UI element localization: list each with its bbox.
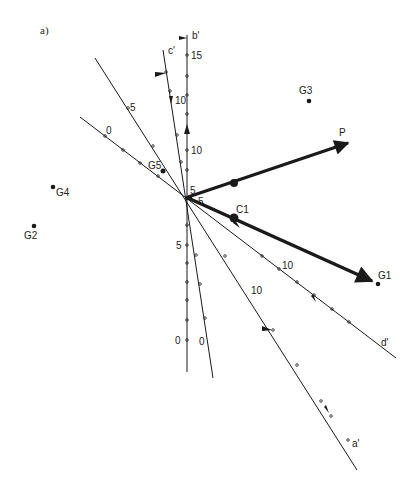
axis-c-label: c'	[168, 45, 175, 56]
point-G2-label: G2	[24, 230, 38, 241]
biplot-figure: a) b' 15 10 5 0 c' 10 0	[0, 0, 413, 484]
point-G3: G3	[299, 85, 313, 103]
axis-c-tick: 0	[199, 336, 205, 347]
axis-d-label: d'	[381, 337, 389, 348]
axis-d-tick: 0	[106, 125, 112, 136]
axis-b-tick: 5	[176, 240, 182, 251]
arrowhead-icon	[184, 124, 190, 134]
flag-marker-icon	[262, 326, 272, 331]
axis-c-tick: 10	[175, 95, 187, 106]
axis-b-label: b'	[192, 30, 200, 41]
vector-P-label: P	[339, 127, 346, 138]
flag-marker-icon	[179, 36, 187, 40]
axis-b-tick: 0	[175, 335, 181, 346]
vector-C1-label: C1	[236, 204, 249, 215]
panel-label: a)	[40, 24, 49, 37]
axis-b-tick: 10	[191, 145, 203, 156]
axis-d-tick: 10	[282, 260, 294, 271]
point-G4-label: G4	[56, 187, 70, 198]
axis-a-label: a'	[352, 438, 360, 449]
axis-b-tick: 15	[191, 50, 203, 61]
axis-a-tick: 5	[130, 102, 136, 113]
point-G1: G1	[376, 270, 392, 286]
point-G2: G2	[24, 224, 38, 241]
axis-a-tick: 10	[251, 285, 263, 296]
point-G3-label: G3	[299, 85, 313, 96]
point-G1-label: G1	[378, 270, 392, 281]
axis-d: 0 10 d'	[80, 117, 396, 358]
vector-P: P	[188, 127, 348, 197]
point-G4: G4	[51, 185, 70, 198]
axis-a: 5 10 a'	[95, 58, 360, 470]
arrowhead-icon	[324, 405, 329, 413]
arrowhead-icon	[169, 96, 173, 104]
flag-marker-icon	[155, 72, 166, 77]
point-G5-label: G5	[148, 160, 162, 171]
